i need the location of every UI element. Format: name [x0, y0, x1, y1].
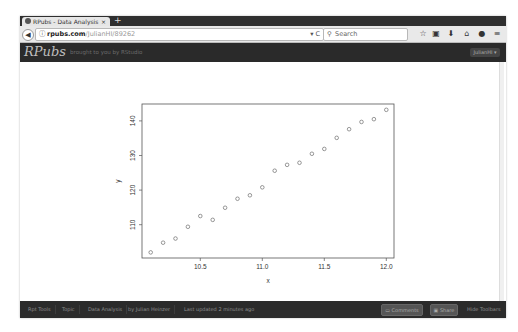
data-point [223, 206, 227, 210]
y-axis-label: y [114, 179, 122, 183]
url-host: rpubs.com/JulianHI/89262 [47, 29, 135, 40]
footer-link-topic[interactable]: Topic [58, 305, 80, 314]
browser-window: RPubs - Data Analysis × + ◀ ⓘ rpubs.com/… [20, 16, 506, 318]
search-input[interactable]: ⚲ Search [323, 28, 408, 41]
footer-updated: Last updated 2 minutes ago [180, 305, 258, 314]
footer-toolbar: Rpt Tools Topic Data Analysis by Julian … [20, 301, 506, 318]
back-button[interactable]: ◀ [22, 29, 34, 41]
site-info-icon[interactable]: ⓘ [39, 29, 46, 40]
x-axis-label: x [266, 277, 270, 284]
share-label: Share [440, 307, 454, 313]
data-point [372, 117, 376, 121]
search-icon: ⚲ [327, 29, 332, 40]
data-point [360, 120, 364, 124]
comments-label: Comments (0) [392, 307, 419, 318]
chat-icon[interactable]: ● [477, 29, 487, 39]
hide-toolbars-button[interactable]: Hide Toolbars [463, 305, 505, 314]
y-tick-label: 130 [129, 150, 136, 161]
x-tick-label: 11.5 [318, 263, 331, 270]
scatter-plot: 10.511.011.512.0110120130140xy [20, 62, 506, 301]
x-tick-label: 10.5 [194, 263, 207, 270]
data-point [149, 251, 153, 255]
data-point [174, 237, 178, 241]
footer-author: by Julian Heinzer [124, 305, 175, 314]
data-point [211, 218, 215, 222]
data-point [261, 186, 265, 190]
user-menu-button[interactable]: JulianHI ▾ [470, 48, 500, 57]
data-point [385, 108, 389, 112]
download-icon[interactable]: ⬇ [446, 29, 456, 39]
new-tab-button[interactable]: + [114, 16, 122, 25]
favicon-icon [25, 18, 31, 24]
rpubs-logo[interactable]: RPubs [24, 44, 66, 59]
data-point [347, 127, 351, 131]
data-point [186, 225, 190, 229]
home-icon[interactable]: ⌂ [462, 29, 472, 39]
nav-bar: ◀ ⓘ rpubs.com/JulianHI/89262 ▾ C ⚲ Searc… [20, 26, 506, 43]
search-placeholder: Search [335, 29, 357, 40]
scrollbar[interactable] [499, 62, 504, 301]
url-path: /JulianHI/89262 [86, 30, 136, 38]
star-icon[interactable]: ☆ [418, 29, 428, 39]
tagline: brought to you by RStudio [70, 49, 142, 55]
reload-icon[interactable]: ▾ C [310, 29, 320, 40]
data-point [323, 147, 327, 151]
site-header: RPubs brought to you by RStudio JulianHI… [20, 43, 506, 62]
y-tick-label: 140 [129, 115, 136, 126]
footer-link-title[interactable]: Data Analysis [84, 305, 127, 314]
share-button[interactable]: ▣ Share [430, 304, 458, 316]
data-point [298, 161, 302, 165]
data-point [236, 197, 240, 201]
y-tick-label: 120 [129, 184, 136, 195]
url-bar[interactable]: ⓘ rpubs.com/JulianHI/89262 ▾ C [35, 28, 324, 41]
page-content: 10.511.011.512.0110120130140xy [20, 62, 506, 301]
data-point [335, 136, 339, 140]
tab-rpubs[interactable]: RPubs - Data Analysis × [22, 17, 110, 26]
data-point [248, 193, 252, 197]
menu-icon[interactable]: ≡ [492, 29, 502, 39]
data-point [285, 163, 289, 167]
x-tick-label: 11.0 [256, 263, 269, 270]
x-tick-label: 12.0 [380, 263, 393, 270]
plot-frame [142, 104, 394, 258]
tab-bar: RPubs - Data Analysis × + [20, 16, 506, 26]
data-point [161, 241, 165, 245]
data-point [273, 169, 277, 173]
close-tab-icon[interactable]: × [101, 17, 106, 26]
tab-title: RPubs - Data Analysis [33, 17, 98, 26]
data-point [310, 152, 314, 156]
footer-link-tools[interactable]: Rpt Tools [24, 305, 56, 314]
y-tick-label: 110 [129, 219, 136, 230]
data-point [199, 214, 203, 218]
clipboard-icon[interactable]: ▣ [431, 29, 441, 39]
comments-button[interactable]: ▭ Comments (0) [381, 304, 423, 316]
